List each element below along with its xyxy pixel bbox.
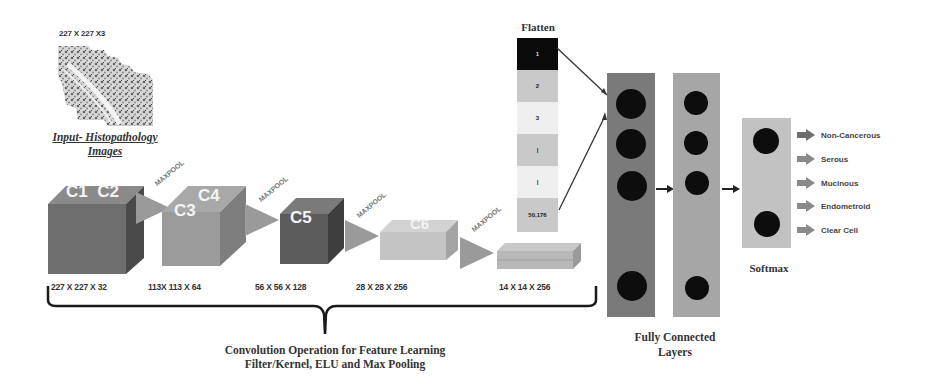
- flatten-cell-6: 50,176: [517, 198, 558, 232]
- input-dimensions: 227 X 227 X3: [59, 29, 105, 38]
- fc2-neuron-2: [684, 131, 708, 155]
- class-label: Serous: [821, 155, 848, 164]
- fc1-neuron-4: [617, 271, 647, 301]
- maxpool-label-3: MAXPOOL: [356, 191, 388, 219]
- maxpool-label-1: MAXPOOL: [154, 159, 186, 187]
- fc1-neuron-2: [616, 129, 646, 159]
- conv-block-final: [497, 243, 581, 269]
- conv-caption: Convolution Operation for Feature Learni…: [150, 343, 520, 371]
- input-caption: Input- Histopathology Images: [30, 130, 180, 158]
- class-arrow-icon: [797, 200, 815, 212]
- fc-caption-line1: Fully Connected: [610, 330, 740, 345]
- class-row-mucinous: Mucinous: [797, 176, 858, 190]
- class-arrow-icon: [797, 224, 815, 236]
- fc2-to-softmax-arrow: [722, 179, 740, 187]
- class-row-non-cancerous: Non-Cancerous: [797, 128, 881, 142]
- flatten-cell-4: |: [517, 134, 558, 166]
- conv-label-c4: C4: [198, 186, 220, 206]
- softmax-neuron-1: [753, 128, 779, 154]
- conv-block-c3-c4: C3 C4: [162, 186, 246, 266]
- output-classes: Non-Cancerous Serous Mucinous Endometroi…: [797, 128, 937, 238]
- flatten-vector: 1 2 3 | | 50,176: [517, 38, 558, 232]
- softmax-title: Softmax: [744, 262, 794, 274]
- flatten-cell-5: |: [517, 166, 558, 198]
- flatten-title: Flatten: [517, 21, 559, 33]
- flatten-connectors: [555, 40, 615, 220]
- class-label: Endometroid: [821, 202, 870, 211]
- fc2-neuron-1: [684, 91, 708, 115]
- conv-label-c1-c2: C1 C2: [66, 182, 119, 202]
- fc1-neuron-3: [617, 171, 647, 201]
- fc1-neuron-1: [616, 89, 646, 119]
- class-row-clear-cell: Clear Cell: [797, 223, 858, 237]
- fc-caption: Fully Connected Layers: [610, 330, 740, 360]
- conv-label-c6: C6: [410, 215, 429, 232]
- softmax-neuron-2: [754, 211, 780, 237]
- fc-caption-line2: Layers: [610, 345, 740, 360]
- conv-block-c6: C6: [380, 220, 458, 260]
- class-label: Mucinous: [821, 179, 858, 188]
- flatten-cell-3: 3: [517, 102, 558, 134]
- input-caption-line1: Input- Histopathology: [30, 130, 180, 144]
- class-label: Clear Cell: [821, 226, 858, 235]
- conv-caption-line1: Convolution Operation for Feature Learni…: [150, 343, 520, 357]
- maxpool-arrow-4: [460, 237, 494, 269]
- conv-brace: [44, 280, 604, 338]
- fc2-neuron-3: [685, 171, 709, 195]
- input-histopathology-image: [58, 44, 153, 126]
- class-label: Non-Cancerous: [821, 131, 881, 140]
- flatten-cell-1: 1: [517, 38, 558, 70]
- maxpool-arrow-3: [345, 220, 379, 252]
- fc2-neuron-4: [685, 276, 709, 300]
- fc-layer-2: [673, 73, 720, 317]
- input-caption-line2: Images: [30, 144, 180, 158]
- conv-caption-line2: Filter/Kernel, ELU and Max Pooling: [150, 357, 520, 371]
- class-arrow-icon: [797, 129, 815, 141]
- softmax-layer: [742, 118, 791, 248]
- conv-block-c1-c2: C1 C2: [48, 186, 144, 274]
- conv-block-c5: C5: [280, 198, 344, 264]
- maxpool-label-4: MAXPOOL: [471, 205, 503, 233]
- fc-layer-1: [607, 73, 655, 317]
- class-row-serous: Serous: [797, 152, 848, 166]
- flatten-cell-2: 2: [517, 70, 558, 102]
- fc1-to-fc2-arrow: [656, 179, 674, 187]
- maxpool-arrow-2: [245, 204, 279, 236]
- class-arrow-icon: [797, 153, 815, 165]
- class-row-endometroid: Endometroid: [797, 199, 870, 213]
- class-arrow-icon: [797, 177, 815, 189]
- conv-label-c3: C3: [174, 201, 196, 221]
- conv-label-c5: C5: [290, 208, 312, 228]
